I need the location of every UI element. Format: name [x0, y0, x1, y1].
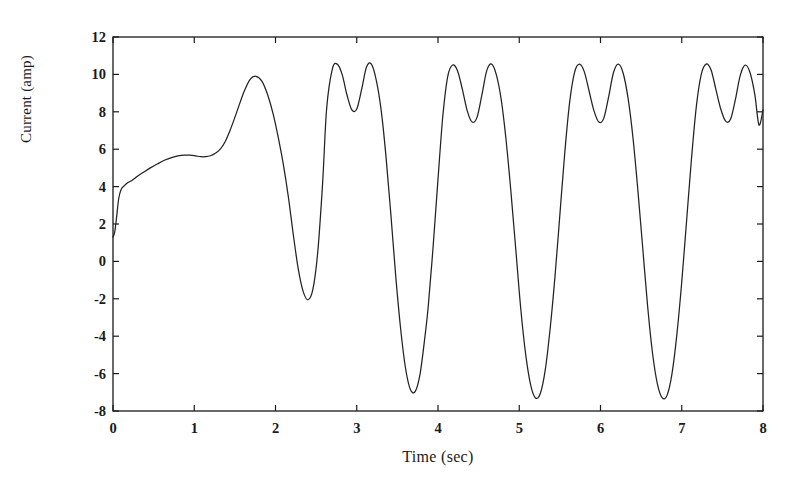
axes-frame	[113, 37, 763, 411]
figure-container: Current (amp) Time (sec) -8-6-4-20246810…	[0, 0, 805, 485]
tick-marks	[113, 37, 763, 411]
data-series	[113, 63, 763, 399]
plot-area	[0, 0, 805, 485]
